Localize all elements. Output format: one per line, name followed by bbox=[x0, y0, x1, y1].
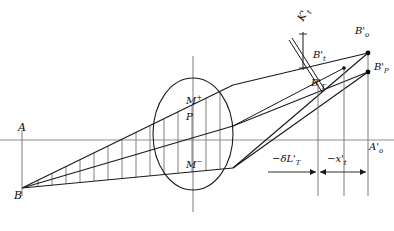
dot-b-t-prime bbox=[342, 66, 346, 70]
ray-out-lower-to-Bp bbox=[233, 72, 368, 168]
dimension-label-delta-l-t-prime: −δL'T bbox=[272, 154, 300, 167]
axis-label-A-o-prime: A'o bbox=[369, 142, 383, 155]
ray-lower-marginal bbox=[22, 168, 233, 188]
image-point-label-b-p-prime: B'P bbox=[374, 62, 389, 75]
ray-tangential bbox=[233, 68, 344, 126]
lens-label-m-minus: M− bbox=[186, 158, 202, 170]
lens-label-p: P bbox=[186, 112, 193, 122]
image-point-label-b-t-prime: B't bbox=[313, 50, 326, 63]
image-point-label-b-T-prime: B'T bbox=[311, 78, 326, 91]
object-point-label-B: B bbox=[14, 190, 22, 201]
axis-label-A: A bbox=[18, 122, 26, 133]
optical-ray-diagram: A B M+ P M− B'o B'P B't B'T K't −δL'T −x… bbox=[0, 0, 394, 231]
dot-b-o-prime bbox=[366, 51, 371, 56]
dot-b-p-prime bbox=[366, 70, 371, 75]
dimension-label-x-t-prime: −x't bbox=[327, 154, 347, 167]
ray-out-lower-to-Bo bbox=[233, 53, 368, 168]
image-point-label-b-o-prime: B'o bbox=[355, 26, 369, 39]
lens-label-m-plus: M+ bbox=[186, 94, 202, 106]
diagram-canvas bbox=[0, 0, 394, 231]
